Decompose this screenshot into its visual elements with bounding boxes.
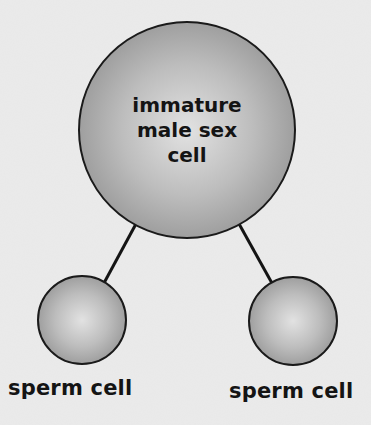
parent-label-line-2: male sex [107,118,267,143]
child-cell-circle-right [249,277,337,365]
diagram-canvas [0,0,371,425]
parent-label-line-3: cell [107,143,267,168]
child-cell-circle-left [38,276,126,364]
parent-cell-label: immature male sex cell [107,93,267,168]
parent-label-line-1: immature [107,93,267,118]
child-cell-label-right: sperm cell [229,379,353,403]
child-cell-label-left: sperm cell [8,376,132,400]
